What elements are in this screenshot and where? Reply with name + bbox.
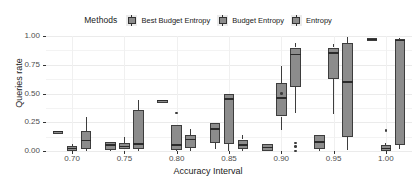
x-axis-title: Accuracy Interval — [0, 166, 416, 176]
plot-panel — [46, 36, 412, 151]
x-tick-mark — [124, 151, 125, 154]
legend-key-box-icon — [126, 15, 137, 26]
boxplot-box[interactable] — [367, 36, 378, 151]
boxplot-box[interactable] — [381, 36, 392, 151]
box-iqr — [395, 39, 406, 145]
y-tick-mark — [43, 65, 46, 66]
y-tick-mark — [43, 36, 46, 37]
y-tick-label: 1.00 — [4, 31, 40, 40]
legend-title: Methods — [84, 15, 117, 25]
y-tick-label: 0.00 — [4, 146, 40, 155]
legend-label: Budget Entropy — [232, 16, 284, 25]
x-tick-label: 0.90 — [259, 154, 303, 163]
box-median — [395, 40, 406, 42]
legend-entry-best-budget-entropy[interactable]: Best Budget Entropy — [126, 15, 210, 26]
x-tick-label: 0.95 — [312, 154, 356, 163]
legend-entry-budget-entropy[interactable]: Budget Entropy — [217, 15, 284, 26]
x-tick-label: 1.00 — [364, 154, 408, 163]
legend-entry-entropy[interactable]: Entropy — [291, 15, 332, 26]
y-tick-label: 0.75 — [4, 60, 40, 69]
x-tick-label: 0.70 — [50, 154, 94, 163]
y-tick-mark — [43, 151, 46, 152]
boxplot-box[interactable] — [395, 36, 406, 151]
x-tick-mark — [281, 151, 282, 154]
outlier-point — [385, 129, 388, 132]
chart-root: Methods Best Budget Entropy Budget Entro… — [0, 0, 416, 188]
y-tick-label: 0.50 — [4, 89, 40, 98]
y-tick-mark — [43, 122, 46, 123]
legend-label: Entropy — [306, 16, 332, 25]
x-tick-label: 0.80 — [155, 154, 199, 163]
x-tick-mark — [386, 151, 387, 154]
legend-key-box-icon — [217, 15, 228, 26]
box-median — [381, 148, 392, 150]
whisker-lower — [399, 145, 400, 148]
x-tick-mark — [229, 151, 230, 154]
legend: Methods Best Budget Entropy Budget Entro… — [0, 11, 416, 29]
box-group-1-00 — [46, 36, 412, 151]
x-tick-label: 0.85 — [207, 154, 251, 163]
x-tick-mark — [177, 151, 178, 154]
x-tick-mark — [334, 151, 335, 154]
legend-label: Best Budget Entropy — [141, 16, 210, 25]
legend-key-box-icon — [291, 15, 302, 26]
x-tick-mark — [72, 151, 73, 154]
x-tick-label: 0.75 — [102, 154, 146, 163]
box-median — [367, 39, 378, 41]
y-tick-mark — [43, 94, 46, 95]
y-tick-label: 0.25 — [4, 117, 40, 126]
